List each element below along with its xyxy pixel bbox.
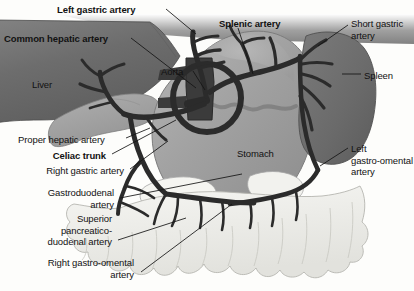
label-superior-pancreaticoduodenal-artery: Superior pancreatico- duodenal artery	[0, 213, 112, 248]
label-proper-hepatic-artery: Proper hepatic artery	[18, 134, 105, 146]
label-left-gastric-artery: Left gastric artery	[57, 4, 135, 16]
label-gastroduodenal-artery: Gastroduodenal artery	[0, 187, 114, 210]
label-right-gastric-artery: Right gastric artery	[0, 165, 124, 177]
anatomy-figure: Left gastric artery Common hepatic arter…	[0, 0, 414, 291]
label-celiac-trunk: Celiac trunk	[0, 150, 106, 162]
label-liver: Liver	[32, 79, 52, 91]
label-short-gastric-artery: Short gastric artery	[351, 18, 403, 41]
label-spleen: Spleen	[364, 70, 393, 82]
label-stomach: Stomach	[237, 148, 274, 160]
label-aorta: Aorta	[161, 66, 183, 78]
label-splenic-artery: Splenic artery	[219, 18, 280, 30]
label-left-gastro-omental-artery: Left gastro-omental artery	[351, 143, 413, 178]
label-right-gastro-omental-artery: Right gastro-omental artery	[0, 257, 134, 280]
label-common-hepatic-artery: Common hepatic artery	[4, 33, 108, 45]
